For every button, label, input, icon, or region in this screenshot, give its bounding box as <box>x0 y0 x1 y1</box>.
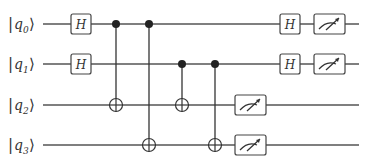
svg-text:⟩: ⟩ <box>29 96 35 114</box>
svg-text:|: | <box>8 136 13 154</box>
svg-text:⟩: ⟩ <box>29 55 35 73</box>
qubit-label-q3: | q 3 ⟩ <box>8 136 35 156</box>
measure-meter-icon-q1 <box>314 54 345 74</box>
measure-meter-icon-q3 <box>235 135 266 155</box>
svg-text:q: q <box>14 56 23 72</box>
svg-text:q: q <box>14 137 23 153</box>
target-xor-icon <box>110 99 123 112</box>
control-dot <box>178 60 186 68</box>
target-xor-icon <box>209 139 222 152</box>
hadamard-gate-q0-2: H <box>280 14 300 34</box>
svg-text:q: q <box>14 16 23 32</box>
svg-text:⟩: ⟩ <box>29 136 35 154</box>
svg-text:|: | <box>8 55 13 73</box>
svg-text:1: 1 <box>23 65 29 75</box>
qubit-label-q1: | q 1 ⟩ <box>8 55 35 75</box>
qubit-label-q2: | q 2 ⟩ <box>8 96 35 116</box>
control-dot <box>145 20 153 28</box>
hadamard-gate-q1-1: H <box>71 54 91 74</box>
svg-text:H: H <box>284 18 296 32</box>
svg-text:|: | <box>8 96 13 114</box>
measure-meter-icon-q2 <box>235 95 266 115</box>
svg-text:|: | <box>8 15 13 33</box>
svg-text:H: H <box>75 58 87 72</box>
measure-meter-icon-q0 <box>314 14 345 34</box>
control-dot <box>112 20 120 28</box>
control-dot <box>211 60 219 68</box>
target-xor-icon <box>176 99 189 112</box>
svg-text:H: H <box>284 58 296 72</box>
svg-text:q: q <box>14 97 23 113</box>
hadamard-gate-q0-1: H <box>71 14 91 34</box>
quantum-circuit: | q 0 ⟩ | q 1 ⟩ | q 2 ⟩ | q 3 ⟩ <box>0 0 374 163</box>
target-xor-icon <box>143 139 156 152</box>
qubit-label-q0: | q 0 ⟩ <box>8 15 35 35</box>
svg-text:H: H <box>75 18 87 32</box>
hadamard-gate-q1-2: H <box>280 54 300 74</box>
svg-text:⟩: ⟩ <box>29 15 35 33</box>
svg-text:2: 2 <box>22 106 29 116</box>
